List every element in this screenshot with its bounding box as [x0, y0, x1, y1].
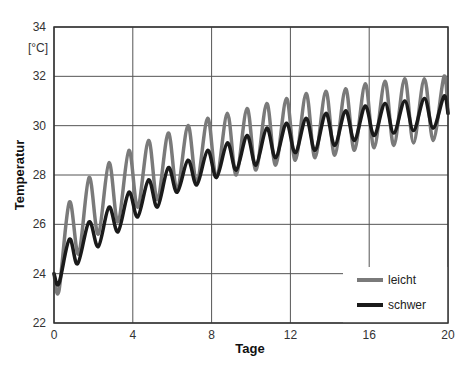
legend: leicht schwer — [343, 267, 448, 323]
legend-label-schwer: schwer — [388, 298, 426, 312]
x-tick-label: 0 — [51, 328, 58, 342]
x-tick-label: 20 — [441, 328, 455, 342]
series-lines — [54, 76, 448, 294]
y-tick-label: 24 — [33, 267, 47, 281]
y-tick-label: 30 — [33, 119, 47, 133]
x-axis-title: Tage — [235, 341, 264, 356]
x-tick-label: 4 — [129, 328, 136, 342]
x-tick-label: 12 — [284, 328, 298, 342]
x-tick-label: 8 — [208, 328, 215, 342]
y-unit-label: [°C] — [28, 41, 48, 55]
y-tick-label: 28 — [33, 168, 47, 182]
y-axis-title: Temperatur — [12, 140, 27, 211]
y-tick-label: 32 — [33, 69, 47, 83]
y-tick-label: 34 — [33, 20, 47, 34]
x-tick-label: 16 — [363, 328, 377, 342]
y-tick-label: 22 — [33, 316, 47, 330]
temperature-chart: leicht schwer 04812162022242628303234 [°… — [0, 0, 470, 371]
y-tick-label: 26 — [33, 217, 47, 231]
legend-label-leicht: leicht — [388, 273, 417, 287]
